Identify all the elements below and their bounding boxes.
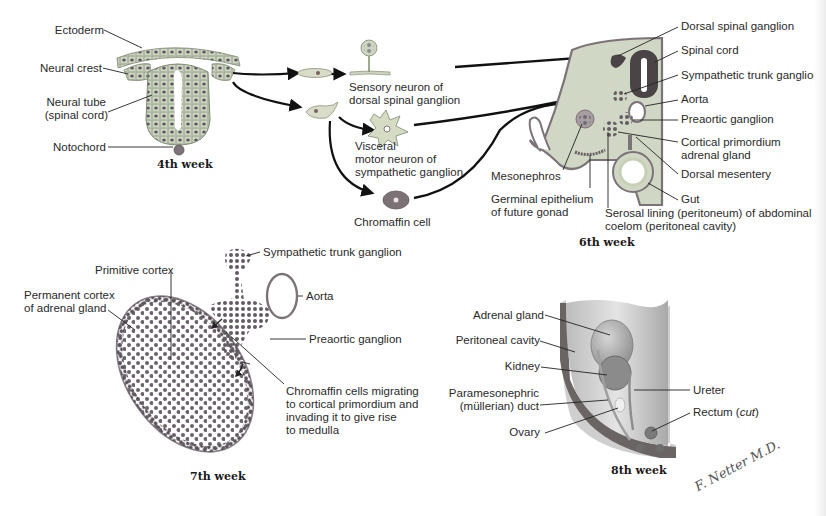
label-rectum: Rectum (cut) (693, 406, 759, 419)
rectum-organ (645, 427, 657, 439)
label-rectum-note: cut (740, 406, 755, 418)
label-chromaffin-cell: Chromaffin cell (354, 216, 431, 229)
preaortic-ganglion-6w (619, 112, 633, 126)
week8-abdominal-wall (560, 300, 676, 458)
label-adrenal-gland: Adrenal gland (440, 309, 544, 322)
label-notochord: Notochord (20, 141, 106, 154)
label-paramesonephric-1: Paramesonephric (440, 387, 539, 400)
label-visceral-3: sympathetic ganglion (355, 166, 463, 179)
label-cortical-primordium-2: adrenal gland (681, 149, 751, 162)
label-preaortic-ganglion-6w: Preaortic ganglion (681, 113, 774, 126)
cell-derivatives (233, 40, 409, 209)
label-gut: Gut (681, 193, 700, 206)
label-primitive-cortex: Primitive cortex (95, 264, 174, 277)
label-dorsal-mesentery: Dorsal mesentery (681, 168, 771, 181)
sympathetic-trunk-ganglion-6w (613, 89, 627, 103)
label-mesonephros: Mesonephros (491, 170, 561, 183)
neural-crest-cell-1 (298, 69, 332, 78)
cortical-primordium (603, 121, 619, 137)
aorta-7w (267, 274, 297, 318)
label-visceral-1: Visceral (355, 140, 396, 153)
caption-7th-week: 7th week (190, 470, 246, 483)
label-paramesonephric-2: (müllerian) duct (440, 400, 539, 413)
label-preaortic-ganglion-7w: Preaortic ganglion (309, 333, 402, 346)
label-permanent-cortex-2: of adrenal gland (24, 302, 106, 315)
label-kidney: Kidney (440, 360, 540, 373)
label-neural-crest: Neural crest (20, 62, 102, 75)
label-permanent-cortex-1: Permanent cortex (24, 289, 115, 302)
label-sympathetic-trunk-ganglion-7w: Sympathetic trunk ganglion (263, 246, 402, 259)
label-germinal-epithelium-1: Germinal epithelium (491, 193, 593, 206)
label-sensory-neuron-1: Sensory neuron of (349, 81, 443, 94)
page-edge-shadow (814, 0, 826, 516)
label-ovary: Ovary (440, 426, 540, 439)
neural-crest-right (212, 64, 235, 81)
label-germinal-epithelium-2: of future gonad (491, 206, 568, 219)
label-aorta-6w: Aorta (681, 93, 709, 106)
sensory-neuron (350, 71, 390, 75)
neural-crest-cell-2 (306, 102, 338, 118)
label-chromaffin-migrating-4: to medulla (286, 424, 339, 437)
label-serosal-lining-1: Serosal lining (peritoneum) of abdominal (605, 207, 811, 220)
label-chromaffin-migrating-2: to cortical primordium and (286, 398, 418, 411)
notochord (174, 145, 184, 155)
label-neural-tube: Neural tube (20, 96, 106, 109)
label-neural-tube-sub: (spinal cord) (20, 109, 108, 122)
caption-8th-week: 8th week (611, 464, 667, 477)
label-ectoderm: Ectoderm (20, 24, 104, 37)
label-chromaffin-migrating-3: invading it to give rise (286, 411, 397, 424)
label-chromaffin-migrating-1: Chromaffin cells migrating (286, 385, 419, 398)
neural-canal (174, 70, 182, 130)
caption-6th-week: 6th week (579, 236, 635, 249)
label-serosal-lining-2: coelom (peritoneal cavity) (605, 220, 736, 233)
label-spinal-cord: Spinal cord (681, 44, 739, 57)
label-visceral-2: motor neuron of (355, 153, 436, 166)
label-rectum-text: Rectum (693, 406, 733, 418)
label-cortical-primordium-1: Cortical primordium (681, 136, 781, 149)
ovary-organ (615, 398, 625, 412)
caption-4th-week: 4th week (157, 158, 213, 171)
week7-adrenal (88, 249, 297, 480)
label-peritoneal-cavity: Peritoneal cavity (440, 334, 540, 347)
label-dorsal-spinal-ganglion: Dorsal spinal ganglion (681, 20, 794, 33)
label-sympathetic-trunk-ganglion-6w: Sympathetic trunk ganglion (681, 69, 820, 82)
label-sensory-neuron-2: dorsal spinal ganglion (349, 94, 460, 107)
label-ureter: Ureter (693, 384, 725, 397)
label-aorta-7w: Aorta (306, 290, 334, 303)
